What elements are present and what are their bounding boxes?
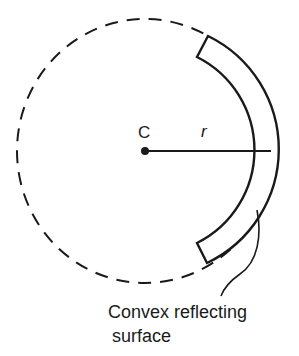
center-label: C <box>138 123 150 143</box>
mirror-body <box>197 36 279 263</box>
radius-label: r <box>201 122 207 142</box>
center-point <box>141 147 149 155</box>
caption-line-1: Convex reflecting <box>108 302 247 323</box>
caption-line-2: surface <box>112 326 171 347</box>
